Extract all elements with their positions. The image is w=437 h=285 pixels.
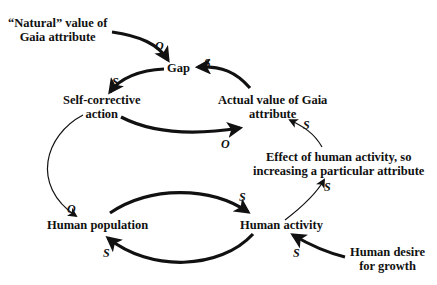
node-self-corrective-line1: Self-corrective [63, 93, 141, 107]
node-natural-value-line2: Gaia attribute [8, 30, 107, 44]
node-human-desire-line2: for growth [350, 259, 425, 273]
polarity-desire-activity: S [293, 246, 300, 261]
link-activity-to-population [108, 234, 253, 262]
node-actual-value-line2: attribute [218, 107, 327, 121]
link-selfcorrective-to-population [47, 115, 83, 216]
node-gap: Gap [167, 61, 190, 75]
node-natural-value: “Natural” value of Gaia attribute [8, 16, 107, 44]
link-population-to-activity [110, 193, 248, 213]
polarity-effect-actual: S [303, 118, 310, 133]
polarity-activity-population: S [103, 246, 110, 261]
polarity-selfcorrective-population: O [67, 202, 76, 217]
node-human-population: Human population [47, 218, 148, 232]
link-desire-to-activity [293, 235, 345, 257]
node-actual-value: Actual value of Gaia attribute [218, 93, 327, 121]
node-actual-value-line1: Actual value of Gaia [218, 93, 327, 107]
polarity-natural-gap: O [155, 39, 164, 54]
node-self-corrective-line2: action [63, 107, 141, 121]
node-human-activity: Human activity [240, 218, 323, 232]
polarity-actual-gap: S [204, 56, 211, 71]
node-effect-line2: increasing a particular attribute [253, 164, 424, 178]
node-self-corrective: Self-corrective action [63, 93, 141, 121]
polarity-activity-effect: S [324, 180, 331, 195]
node-human-desire-line1: Human desire [350, 245, 425, 259]
polarity-gap-selfcorrective: S [112, 75, 119, 90]
link-activity-to-effect [285, 180, 324, 220]
node-natural-value-line1: “Natural” value of [8, 16, 107, 30]
node-human-desire: Human desire for growth [350, 245, 425, 273]
node-effect: Effect of human activity, so increasing … [253, 150, 424, 178]
node-effect-line1: Effect of human activity, so [253, 150, 424, 164]
polarity-population-activity: S [239, 190, 246, 205]
polarity-selfcorrective-actual: O [221, 137, 230, 152]
